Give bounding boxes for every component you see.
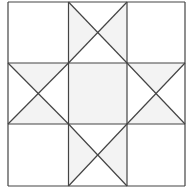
- right-star-point-bottom: [127, 94, 185, 125]
- shaded-regions: [8, 2, 185, 186]
- left-star-point-bottom: [8, 94, 69, 125]
- bottom-star-point-right: [98, 124, 127, 186]
- quilt-block-diagram: [0, 0, 190, 191]
- right-star-point-top: [127, 63, 185, 94]
- center-square: [69, 63, 128, 124]
- left-star-point-top: [8, 63, 69, 94]
- bottom-star-point-left: [69, 124, 98, 186]
- top-star-point-right: [98, 2, 127, 63]
- top-star-point-left: [69, 2, 98, 63]
